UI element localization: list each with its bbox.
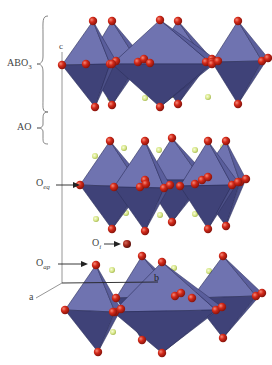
oxygen-atom bbox=[166, 181, 174, 189]
a-cation-atom bbox=[142, 95, 148, 101]
octahedron-lower-face bbox=[112, 64, 212, 107]
oxygen-atom bbox=[191, 180, 199, 188]
a-cation-atom bbox=[110, 329, 116, 335]
oxygen-atom bbox=[141, 227, 149, 235]
a-cation-atom bbox=[92, 153, 98, 159]
oxygen-atom bbox=[138, 336, 146, 344]
oxygen-atom bbox=[91, 103, 99, 111]
oxygen-atom bbox=[176, 182, 184, 190]
oxygen-atom bbox=[204, 173, 212, 181]
oxygen-atom bbox=[158, 349, 166, 357]
oxygen-atom bbox=[58, 61, 66, 69]
arrow-o-ap bbox=[58, 259, 90, 269]
perovskite-structure-diagram: ABO3 AO Oeq Oi Oap c a b bbox=[0, 0, 272, 365]
oxygen-atom bbox=[204, 225, 212, 233]
oxygen-atom bbox=[168, 218, 176, 226]
oxygen-atom bbox=[156, 103, 164, 111]
oxygen-atom bbox=[168, 134, 176, 142]
axis-label-b: b bbox=[154, 273, 159, 283]
oxygen-atom bbox=[219, 252, 227, 260]
oxygen-atom bbox=[138, 252, 146, 260]
oxygen-atom bbox=[94, 348, 102, 356]
oxygen-atom bbox=[234, 17, 242, 25]
ao-brace bbox=[36, 111, 50, 145]
oxygen-atom bbox=[109, 308, 117, 316]
interstitial-oxygen-atom bbox=[123, 240, 131, 248]
oxygen-atom bbox=[108, 101, 116, 109]
bottom-octahedra-layer bbox=[61, 252, 266, 357]
axis-label-c: c bbox=[59, 42, 63, 51]
arrow-o-i bbox=[104, 239, 122, 249]
oxygen-atom bbox=[174, 100, 182, 108]
oxygen-atom bbox=[156, 16, 164, 24]
oxygen-atom bbox=[234, 100, 242, 108]
axis-label-a: a bbox=[29, 292, 33, 302]
oxygen-atom bbox=[222, 222, 230, 230]
oxygen-atom bbox=[117, 305, 125, 313]
oxygen-atom bbox=[92, 261, 100, 269]
oxygen-atom bbox=[61, 306, 69, 314]
oxygen-atom bbox=[142, 180, 150, 188]
label-o-eq: Oeq bbox=[36, 178, 50, 191]
oxygen-atom bbox=[258, 289, 266, 297]
oxygen-atom bbox=[264, 54, 272, 62]
oxygen-atom bbox=[112, 294, 120, 302]
oxygen-atom bbox=[219, 334, 227, 342]
octahedron-lower-face bbox=[113, 310, 216, 353]
octahedron-lower-face bbox=[212, 61, 262, 104]
label-o-ap: Oap bbox=[36, 258, 50, 271]
layers-group bbox=[58, 16, 272, 357]
oxygen-atom bbox=[108, 60, 116, 68]
oxygen-atom bbox=[108, 225, 116, 233]
label-ao: AO bbox=[17, 122, 31, 132]
oxygen-atom bbox=[218, 303, 226, 311]
a-cation-atom bbox=[205, 94, 211, 100]
a-cation-atom bbox=[109, 267, 115, 273]
oxygen-atom bbox=[108, 17, 116, 25]
a-cation-atom bbox=[121, 145, 127, 151]
arrow-o-eq bbox=[56, 180, 82, 190]
oxygen-atom bbox=[141, 137, 149, 145]
oxygen-atom bbox=[222, 137, 230, 145]
oxygen-atom bbox=[110, 183, 118, 191]
top-octahedra-layer bbox=[58, 16, 272, 111]
label-abo3: ABO3 bbox=[7, 58, 32, 71]
a-cation-atom bbox=[192, 147, 198, 153]
middle-octahedra-layer bbox=[76, 134, 250, 235]
oxygen-atom bbox=[146, 59, 154, 67]
oxygen-atom bbox=[174, 17, 182, 25]
oxygen-atom bbox=[234, 178, 242, 186]
oxygen-atom bbox=[106, 137, 114, 145]
oxygen-atom bbox=[158, 258, 166, 266]
label-o-i: Oi bbox=[92, 238, 101, 251]
oxygen-atom bbox=[188, 294, 196, 302]
oxygen-atom bbox=[214, 57, 222, 65]
axis-a-line bbox=[36, 283, 62, 298]
oxygen-atom bbox=[89, 17, 97, 25]
octahedron bbox=[113, 262, 222, 353]
a-cation-atom bbox=[156, 147, 162, 153]
a-cation-atom bbox=[93, 216, 99, 222]
abo3-brace bbox=[36, 14, 50, 114]
a-cation-atom bbox=[157, 212, 163, 218]
oxygen-atom bbox=[242, 175, 250, 183]
oxygen-atom bbox=[204, 137, 212, 145]
oxygen-atom bbox=[177, 289, 185, 297]
oxygen-atom bbox=[82, 60, 90, 68]
